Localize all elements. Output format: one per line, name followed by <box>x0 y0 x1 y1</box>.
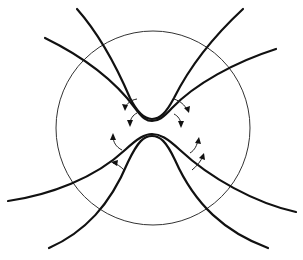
field-line-diagram <box>0 0 303 260</box>
arrow-lower-left-2-icon <box>111 160 124 170</box>
arrow-upper-right-2-icon <box>174 114 184 128</box>
arrowhead-icon <box>122 104 128 111</box>
upper-outer-curve <box>45 38 276 121</box>
arrow-upper-left-2-icon <box>127 113 137 127</box>
arrow-upper-right-1-icon <box>174 99 190 113</box>
upper-inner-curve <box>77 9 243 119</box>
lower-inner-curve <box>49 136 268 248</box>
curve-group <box>8 9 296 248</box>
arrowhead-icon <box>178 121 184 128</box>
arrow-lower-left-1-icon <box>110 133 122 150</box>
arrowhead-icon <box>199 153 205 160</box>
diagram-canvas <box>0 0 303 260</box>
lower-outer-curve <box>8 134 296 212</box>
arrow-lower-right-1-icon <box>190 137 201 153</box>
arrowhead-icon <box>127 120 133 127</box>
arrowhead-icon <box>195 137 201 144</box>
arrowhead-icon <box>110 133 116 140</box>
